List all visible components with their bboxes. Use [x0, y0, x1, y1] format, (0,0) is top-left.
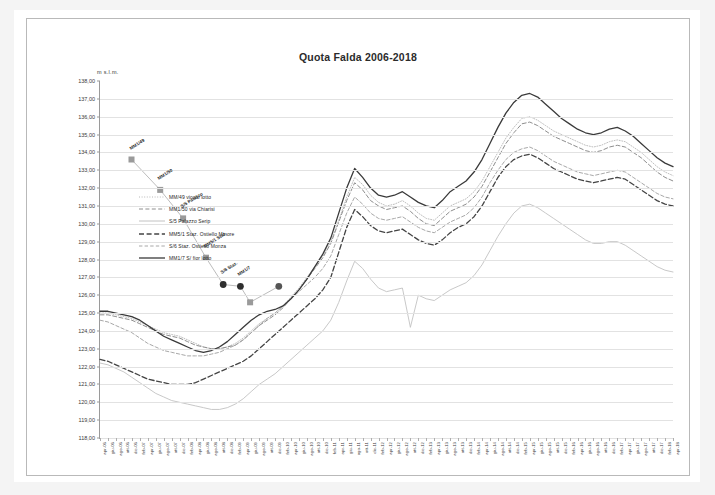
- legend-item[interactable]: MM/49 vicolo lotto: [139, 191, 235, 203]
- legend-item-label: S/5 Palazzo Serip: [169, 218, 210, 224]
- legend-item-label: MM5/1 Staz. Ostiello Minore: [169, 231, 235, 237]
- x-tick-mark: [665, 438, 666, 441]
- x-tick-mark: [148, 438, 149, 441]
- y-tick-mark: [97, 205, 100, 206]
- legend-item[interactable]: S/5 Palazzo Serip: [139, 215, 235, 227]
- x-tick-label: giu-14: [492, 442, 497, 454]
- x-tick-label: feb-11: [332, 442, 337, 454]
- x-tick-mark: [188, 438, 189, 441]
- y-gridline: [100, 152, 673, 153]
- y-gridline: [100, 313, 673, 314]
- y-tick-mark: [97, 313, 100, 314]
- x-tick-label: ago-06: [118, 442, 123, 456]
- chart-legend: MM/49 vicolo lottoMM1/50 via ChiarisiS/5…: [139, 191, 235, 264]
- y-tick-mark: [97, 188, 100, 189]
- x-tick-label: giu-07: [157, 442, 162, 454]
- x-tick-mark: [211, 438, 212, 441]
- y-gridline: [100, 384, 673, 385]
- x-tick-mark: [331, 438, 332, 441]
- x-tick-label: dic-10: [324, 442, 329, 454]
- y-tick-label: 123,00: [78, 346, 95, 352]
- x-tick-label: apr-16: [579, 442, 584, 455]
- x-tick-mark: [363, 438, 364, 441]
- x-tick-mark: [371, 438, 372, 441]
- x-tick-label: ott-07: [173, 442, 178, 453]
- x-tick-label: ott-13: [460, 442, 465, 453]
- annotation-circle-marker: [237, 283, 244, 290]
- x-tick-label: dic-12: [420, 442, 425, 454]
- x-tick-label: giu-10: [301, 442, 306, 454]
- x-tick-mark: [203, 438, 204, 441]
- x-tick-label: giu-08: [205, 442, 210, 454]
- x-tick-label: feb-07: [141, 442, 146, 454]
- x-tick-label: apr-18: [675, 442, 680, 455]
- x-tick-mark: [307, 438, 308, 441]
- x-tick-mark: [347, 438, 348, 441]
- x-tick-mark: [514, 438, 515, 441]
- x-tick-label: apr-11: [340, 442, 345, 454]
- y-gridline: [100, 331, 673, 332]
- x-tick-label: ott-06: [125, 442, 130, 453]
- legend-item[interactable]: MM1/7 S/ fior lotto: [139, 252, 235, 264]
- x-tick-mark: [140, 438, 141, 441]
- x-tick-label: feb-13: [428, 442, 433, 454]
- page-root: Quota Falda 2006-2018 m s.l.m. 138,00137…: [0, 0, 715, 495]
- x-tick-label: ago-14: [500, 442, 505, 456]
- legend-item-label: MM/49 vicolo lotto: [169, 194, 211, 200]
- x-tick-label: ago-07: [165, 442, 170, 456]
- x-tick-label: ago-16: [595, 442, 600, 456]
- x-tick-mark: [116, 438, 117, 441]
- y-tick-label: 134,00: [78, 149, 95, 155]
- legend-key-icon: [139, 255, 165, 261]
- legend-item[interactable]: S/6 Staz. Ostiello Monza: [139, 240, 235, 252]
- legend-key-icon: [139, 206, 165, 212]
- x-tick-label: ott-10: [316, 442, 321, 453]
- x-tick-label: ott-17: [651, 442, 656, 453]
- y-tick-label: 119,00: [79, 417, 95, 423]
- y-tick-mark: [97, 170, 100, 171]
- x-tick-mark: [108, 438, 109, 441]
- y-tick-mark: [97, 241, 100, 242]
- x-tick-mark: [434, 438, 435, 441]
- x-tick-label: dic-16: [611, 442, 616, 454]
- x-tick-label: feb-14: [476, 442, 481, 454]
- x-tick-mark: [219, 438, 220, 441]
- y-gridline: [100, 402, 673, 403]
- legend-item[interactable]: MM5/1 Staz. Ostiello Minore: [139, 228, 235, 240]
- y-gridline: [100, 295, 673, 296]
- x-tick-mark: [649, 438, 650, 441]
- x-tick-label: ott-15: [555, 442, 560, 453]
- x-tick-mark: [410, 438, 411, 441]
- x-tick-mark: [355, 438, 356, 441]
- x-tick-label: dic-08: [229, 442, 234, 454]
- y-tick-label: 128,00: [78, 257, 95, 263]
- y-tick-label: 118,00: [79, 435, 95, 441]
- x-tick-mark: [601, 438, 602, 441]
- x-tick-mark: [554, 438, 555, 441]
- x-tick-mark: [546, 438, 547, 441]
- x-tick-label: feb-09: [237, 442, 242, 454]
- x-tick-label: ott-14: [507, 442, 512, 453]
- y-tick-mark: [97, 259, 100, 260]
- x-tick-mark: [227, 438, 228, 441]
- x-tick-label: dic-07: [181, 442, 186, 454]
- legend-key-icon: [139, 243, 165, 249]
- y-gridline: [100, 99, 673, 100]
- legend-item[interactable]: MM1/50 via Chiarisi: [139, 203, 235, 215]
- y-tick-mark: [97, 81, 100, 82]
- x-tick-mark: [641, 438, 642, 441]
- x-tick-mark: [578, 438, 579, 441]
- x-tick-label: giu-17: [635, 442, 640, 454]
- annotation-square-marker: [247, 299, 253, 305]
- x-tick-label: dic-13: [468, 442, 473, 454]
- x-tick-mark: [458, 438, 459, 441]
- x-tick-mark: [299, 438, 300, 441]
- x-tick-label: apr-12: [388, 442, 393, 455]
- y-tick-label: 129,00: [78, 239, 95, 245]
- x-tick-label: apr-09: [245, 442, 250, 455]
- y-tick-mark: [97, 420, 100, 421]
- legend-key-icon: [139, 231, 165, 237]
- x-tick-mark: [609, 438, 610, 441]
- x-tick-mark: [617, 438, 618, 441]
- y-tick-label: 126,00: [78, 292, 95, 298]
